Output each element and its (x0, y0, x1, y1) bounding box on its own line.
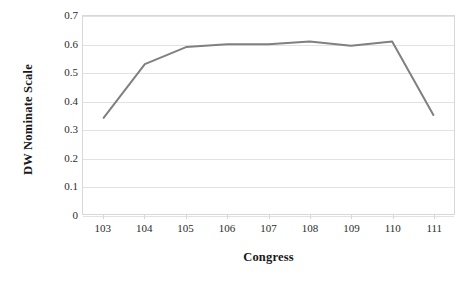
y-axis-tick-label: 0.6 (44, 38, 78, 50)
x-axis-tick-mark (186, 215, 187, 219)
y-axis-tick-label: 0.5 (44, 66, 78, 78)
y-axis-tick-label: 0.4 (44, 95, 78, 107)
x-axis-tick-mark (144, 215, 145, 219)
y-axis-title: DW Nominate Scale (21, 30, 36, 210)
y-axis-tick-label: 0.2 (44, 152, 78, 164)
y-axis-tick-label: 0.7 (44, 9, 78, 21)
x-axis-tick-label: 107 (246, 222, 292, 234)
x-axis-tick-label: 103 (80, 222, 126, 234)
x-axis-tick-label: 111 (411, 222, 457, 234)
x-axis-title: Congress (82, 250, 455, 265)
x-axis-tick-label: 109 (328, 222, 374, 234)
x-axis-tick-mark (310, 215, 311, 219)
x-axis-tick-mark (269, 215, 270, 219)
y-axis-tick-label: 0 (44, 209, 78, 221)
x-axis-tick-label: 104 (121, 222, 167, 234)
x-axis-tick-mark (227, 215, 228, 219)
plot-area (82, 15, 455, 215)
y-axis-tick-label: 0.3 (44, 123, 78, 135)
y-axis-tick-label: 0.1 (44, 180, 78, 192)
x-axis-tick-label: 105 (163, 222, 209, 234)
x-axis-tick-mark (351, 215, 352, 219)
x-axis-tick-label: 110 (370, 222, 416, 234)
x-axis-tick-mark (103, 215, 104, 219)
x-axis-tick-mark (434, 215, 435, 219)
x-axis-tick-labels: 103104105106107108109110111 (82, 222, 455, 242)
x-axis-tick-mark (393, 215, 394, 219)
series-line-dw-nominate-scale (83, 16, 454, 214)
y-axis-tick-labels: 00.10.20.30.40.50.60.7 (44, 15, 78, 215)
x-axis-tick-label: 108 (287, 222, 333, 234)
x-axis-tick-label: 106 (204, 222, 250, 234)
line-chart: DW Nominate Scale 00.10.20.30.40.50.60.7… (0, 0, 472, 284)
